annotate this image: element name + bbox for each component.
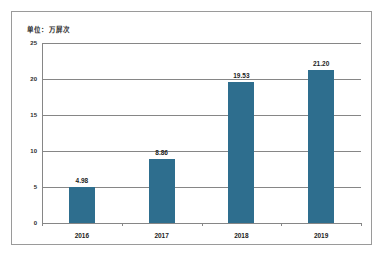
x-axis-category-label: 2016 xyxy=(75,232,89,239)
bar-slot: 8.862017 xyxy=(122,43,202,223)
y-axis-tick-label: 5 xyxy=(34,184,37,190)
x-axis-tick-mark xyxy=(281,223,282,226)
y-axis-tick-label: 20 xyxy=(30,76,37,82)
bar-value-label: 19.53 xyxy=(233,72,249,79)
y-axis-tick-label: 0 xyxy=(34,220,37,226)
x-axis-category-label: 2017 xyxy=(154,232,168,239)
x-axis-category-label: 2018 xyxy=(234,232,248,239)
plot-area: 0510152025 4.9820168.86201719.53201821.2… xyxy=(42,43,361,223)
bar[interactable] xyxy=(149,159,175,223)
x-axis-tick-mark xyxy=(122,223,123,226)
bar-value-label: 8.86 xyxy=(155,149,168,156)
x-axis-tick-mark xyxy=(361,223,362,226)
y-axis-tick-label: 25 xyxy=(30,40,37,46)
chart-frame: 单位：万屏次 0510152025 4.9820168.86201719.532… xyxy=(11,11,372,245)
bar-slot: 21.202019 xyxy=(281,43,361,223)
bar-slot: 19.532018 xyxy=(202,43,282,223)
x-axis-tick-mark xyxy=(202,223,203,226)
bar[interactable] xyxy=(228,82,254,223)
y-axis-tick-label: 15 xyxy=(30,112,37,118)
bar-value-label: 21.20 xyxy=(313,60,329,67)
y-axis-tick-label: 10 xyxy=(30,148,37,154)
bar[interactable] xyxy=(308,70,334,223)
bar-value-label: 4.98 xyxy=(76,177,89,184)
bar-slot: 4.982016 xyxy=(42,43,122,223)
x-axis-tick-mark xyxy=(42,223,43,226)
unit-caption: 单位：万屏次 xyxy=(27,24,70,34)
bar[interactable] xyxy=(69,187,95,223)
x-axis-category-label: 2019 xyxy=(314,232,328,239)
